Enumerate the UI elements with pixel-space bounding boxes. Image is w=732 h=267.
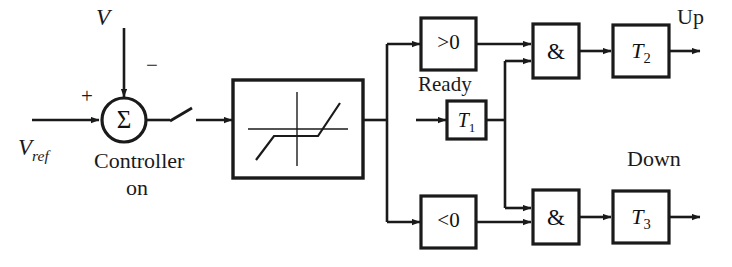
- ready-label: Ready: [418, 74, 472, 95]
- t3-block-label: T3: [613, 206, 669, 232]
- reference-input-subscript: ref: [32, 147, 49, 164]
- feedback-input-label: V: [96, 6, 110, 29]
- controller-label-line1: Controller: [94, 150, 184, 172]
- gt0-block-label: >0: [421, 32, 476, 53]
- t1-base: T: [458, 109, 469, 131]
- and-down-label: &: [533, 206, 579, 229]
- t1-block-label: T1: [447, 110, 486, 134]
- up-output-label: Up: [677, 6, 704, 28]
- t1-subscript: 1: [469, 120, 476, 135]
- reference-input-label: Vref: [18, 136, 49, 163]
- t2-subscript: 2: [643, 50, 650, 66]
- t3-subscript: 3: [643, 216, 650, 232]
- switch-blade: [170, 108, 192, 121]
- t2-block-label: T2: [613, 40, 669, 66]
- t2-base: T: [631, 38, 643, 63]
- sum-symbol-label: Σ: [108, 107, 140, 132]
- lt0-block-label: <0: [421, 210, 476, 231]
- block-diagram-canvas: V + − Σ Vref Controller on >0 Ready T1 &…: [0, 0, 732, 267]
- t3-base: T: [631, 204, 643, 229]
- reference-input-base: V: [18, 135, 32, 160]
- controller-label-line2: on: [126, 177, 148, 199]
- down-output-label: Down: [627, 148, 681, 170]
- minus-sign-label: −: [146, 55, 158, 76]
- plus-sign-label: +: [81, 86, 93, 107]
- and-up-label: &: [533, 40, 579, 63]
